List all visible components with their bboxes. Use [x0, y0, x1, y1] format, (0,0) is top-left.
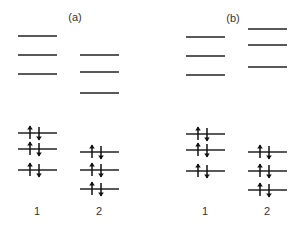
panel-a-column-1-label: 1 — [34, 205, 40, 217]
panel-b-column-1-label: 1 — [202, 205, 208, 217]
panel-a-label: (a) — [68, 11, 81, 23]
panel-a-column-2-label: 2 — [96, 205, 102, 217]
energy-level-diagram: (a) (b) 1 2 1 2 — [0, 0, 301, 229]
panel-b-column-2-label: 2 — [264, 205, 270, 217]
panel-b-label: (b) — [226, 12, 239, 24]
